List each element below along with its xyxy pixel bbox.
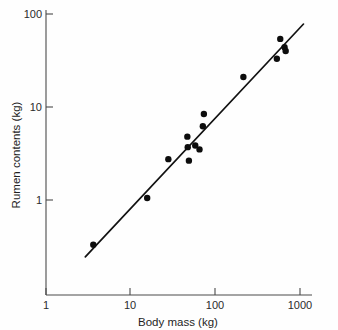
y-tick-label-1: 1 bbox=[36, 194, 42, 206]
x-tick-label-100: 100 bbox=[206, 299, 224, 311]
data-points-group bbox=[90, 36, 289, 248]
data-point bbox=[196, 146, 202, 152]
data-point bbox=[282, 48, 288, 54]
x-tick-label-1000: 1000 bbox=[288, 299, 312, 311]
data-point bbox=[201, 111, 207, 117]
data-point bbox=[186, 157, 192, 163]
data-point bbox=[90, 242, 96, 248]
data-point bbox=[165, 156, 171, 162]
regression-line bbox=[85, 24, 303, 257]
regression-line-group bbox=[85, 24, 303, 257]
x-tick-label-1: 1 bbox=[43, 299, 49, 311]
data-point bbox=[185, 144, 191, 150]
x-axis-title: Body mass (kg) bbox=[138, 316, 218, 328]
data-point bbox=[200, 123, 206, 129]
data-point bbox=[274, 56, 280, 62]
x-axis-group: 1 10 100 1000 Body mass (kg) bbox=[43, 288, 312, 328]
x-tick-label-10: 10 bbox=[124, 299, 136, 311]
y-axis-title: Rumen contents (kg) bbox=[10, 101, 22, 208]
y-tick-label-100: 100 bbox=[24, 8, 42, 20]
y-axis-group: 100 10 1 Rumen contents (kg) bbox=[10, 8, 53, 295]
y-tick-label-10: 10 bbox=[30, 101, 42, 113]
data-point bbox=[277, 36, 283, 42]
plot-canvas: 100 10 1 Rumen contents (kg) 1 10 100 10… bbox=[0, 0, 338, 330]
scatter-plot-figure: 100 10 1 Rumen contents (kg) 1 10 100 10… bbox=[0, 0, 338, 330]
data-point bbox=[144, 195, 150, 201]
data-point bbox=[184, 133, 190, 139]
data-point bbox=[240, 74, 246, 80]
